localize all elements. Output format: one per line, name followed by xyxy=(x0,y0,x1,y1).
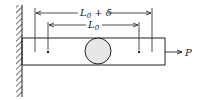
gauge-mark-left xyxy=(47,51,49,53)
fixed-wall xyxy=(16,5,22,97)
diagram: L0 + δ L0 P xyxy=(0,0,205,100)
force-label: P xyxy=(184,47,192,58)
gauge-mark-right xyxy=(138,51,140,53)
hole xyxy=(85,38,111,64)
force-arrow-icon xyxy=(165,50,182,54)
outer-dimension-label: L0 + δ xyxy=(79,7,112,20)
inner-dimension-label: L0 xyxy=(87,19,100,32)
